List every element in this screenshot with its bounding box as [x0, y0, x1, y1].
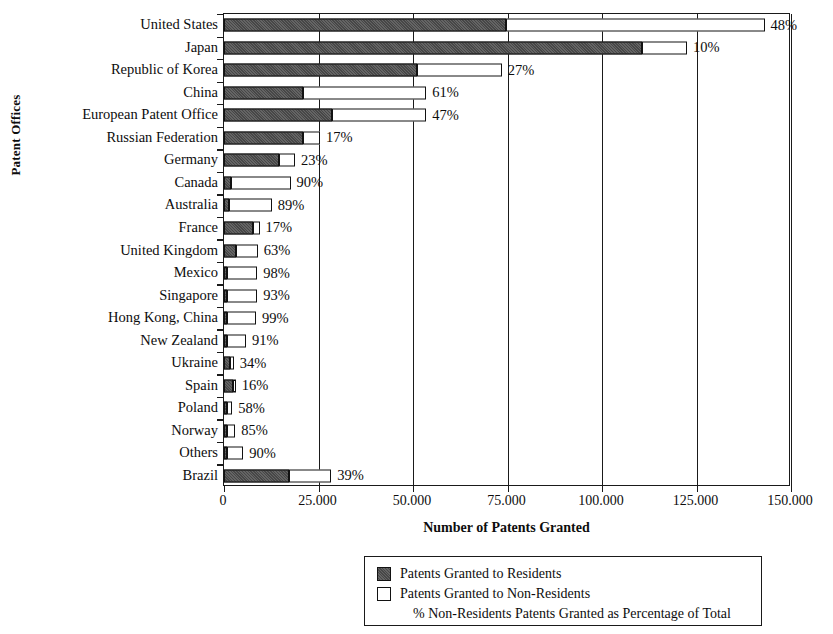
x-tick-mark — [224, 485, 225, 492]
legend-note-percentage: % Non-Residents Patents Granted as Perce… — [413, 606, 761, 622]
bar-percentage-label: 27% — [508, 63, 535, 78]
y-tick-mark — [217, 194, 224, 195]
bar-segment-non-residents — [236, 244, 257, 257]
y-tick-label: Germany — [40, 152, 218, 167]
y-tick-mark — [217, 172, 224, 173]
bar-segment-non-residents — [227, 424, 235, 437]
bar-row: 91% — [224, 334, 791, 347]
y-tick-label: United Kingdom — [40, 242, 218, 257]
bar-segment-non-residents — [417, 64, 502, 77]
bar-row: 99% — [224, 312, 791, 325]
bar-segment-non-residents — [279, 154, 295, 167]
y-axis-category-labels: United StatesJapanRepublic of KoreaChina… — [40, 13, 218, 486]
y-tick-label: Canada — [40, 175, 218, 190]
bar-percentage-label: 58% — [238, 401, 265, 416]
y-tick-label: Ukraine — [40, 355, 218, 370]
patents-granted-bar-chart: Patent Offices United StatesJapanRepubli… — [0, 0, 833, 634]
plot-area: 48%10%27%61%47%17%23%90%89%17%63%98%93%9… — [223, 13, 790, 486]
bar-percentage-label: 17% — [326, 131, 353, 146]
bar-row: 17% — [224, 131, 791, 144]
bar-row: 47% — [224, 109, 791, 122]
y-tick-mark — [217, 442, 224, 443]
bar-percentage-label: 89% — [278, 198, 305, 213]
x-tick-mark — [697, 485, 698, 492]
x-tick-label: 125.000 — [673, 493, 719, 509]
y-tick-label: Norway — [40, 422, 218, 437]
bar-row: 23% — [224, 154, 791, 167]
bar-row: 61% — [224, 86, 791, 99]
legend-label-non-residents: Patents Granted to Non-Residents — [400, 586, 590, 602]
x-axis-title: Number of Patents Granted — [223, 520, 790, 536]
y-tick-label: Spain — [40, 377, 218, 392]
bar-segment-non-residents — [230, 357, 233, 370]
x-tick-label: 100.000 — [578, 493, 624, 509]
bar-row: 34% — [224, 357, 791, 370]
x-tick-label: 0 — [220, 493, 227, 509]
y-tick-label: New Zealand — [40, 332, 218, 347]
bar-percentage-label: 47% — [432, 108, 459, 123]
y-tick-mark — [217, 397, 224, 398]
y-tick-label: Singapore — [40, 287, 218, 302]
y-tick-label: Poland — [40, 400, 218, 415]
y-tick-label: China — [40, 85, 218, 100]
legend-label-residents: Patents Granted to Residents — [400, 566, 561, 582]
bar-percentage-label: 91% — [252, 333, 279, 348]
bar-percentage-label: 16% — [242, 378, 269, 393]
bar-segment-residents — [224, 379, 233, 392]
bar-segment-non-residents — [289, 469, 331, 482]
bar-percentage-label: 39% — [337, 468, 364, 483]
bar-percentage-label: 48% — [771, 18, 798, 33]
bar-segment-residents — [224, 469, 289, 482]
y-tick-mark — [217, 352, 224, 353]
y-tick-mark — [217, 82, 224, 83]
x-tick-label: 75.000 — [487, 493, 526, 509]
bar-segment-non-residents — [227, 312, 256, 325]
bar-row: 17% — [224, 221, 791, 234]
bar-segment-non-residents — [233, 379, 236, 392]
y-tick-mark — [217, 307, 224, 308]
bar-segment-non-residents — [227, 447, 243, 460]
bar-row: 90% — [224, 447, 791, 460]
bar-percentage-label: 10% — [693, 41, 720, 56]
bar-segment-residents — [224, 176, 231, 189]
bar-row: 93% — [224, 289, 791, 302]
y-tick-mark — [217, 59, 224, 60]
y-tick-mark — [217, 374, 224, 375]
legend-swatch-non-residents-icon — [377, 587, 391, 601]
bar-row: 27% — [224, 64, 791, 77]
y-tick-label: Others — [40, 445, 218, 460]
bar-segment-non-residents — [229, 199, 271, 212]
x-tick-label: 25.000 — [298, 493, 337, 509]
bar-segment-residents — [224, 221, 253, 234]
bar-segment-non-residents — [227, 334, 246, 347]
y-tick-label: Japan — [40, 40, 218, 55]
gridline — [791, 14, 792, 485]
bar-segment-residents — [224, 109, 332, 122]
bar-row: 16% — [224, 379, 791, 392]
y-tick-mark — [217, 284, 224, 285]
bar-segment-residents — [224, 244, 236, 257]
bar-percentage-label: 90% — [249, 446, 276, 461]
bar-percentage-label: 99% — [262, 311, 289, 326]
bar-row: 58% — [224, 402, 791, 415]
y-tick-label: France — [40, 220, 218, 235]
y-tick-label: Republic of Korea — [40, 62, 218, 77]
bar-row: 89% — [224, 199, 791, 212]
legend-entry-non-residents: Patents Granted to Non-Residents — [377, 586, 761, 602]
bar-percentage-label: 63% — [264, 243, 291, 258]
bar-percentage-label: 98% — [263, 266, 290, 281]
bar-segment-non-residents — [227, 289, 257, 302]
bar-row: 10% — [224, 41, 791, 54]
bar-percentage-label: 23% — [301, 153, 328, 168]
bar-percentage-label: 17% — [266, 221, 293, 236]
bar-row: 90% — [224, 176, 791, 189]
y-tick-label: Australia — [40, 197, 218, 212]
y-tick-label: Hong Kong, China — [40, 310, 218, 325]
y-tick-label: European Patent Office — [40, 107, 218, 122]
y-tick-label: Russian Federation — [40, 130, 218, 145]
y-tick-mark — [217, 217, 224, 218]
y-tick-mark — [217, 239, 224, 240]
bar-percentage-label: 34% — [240, 356, 267, 371]
y-tick-label: Brazil — [40, 467, 218, 482]
bar-row: 98% — [224, 267, 791, 280]
